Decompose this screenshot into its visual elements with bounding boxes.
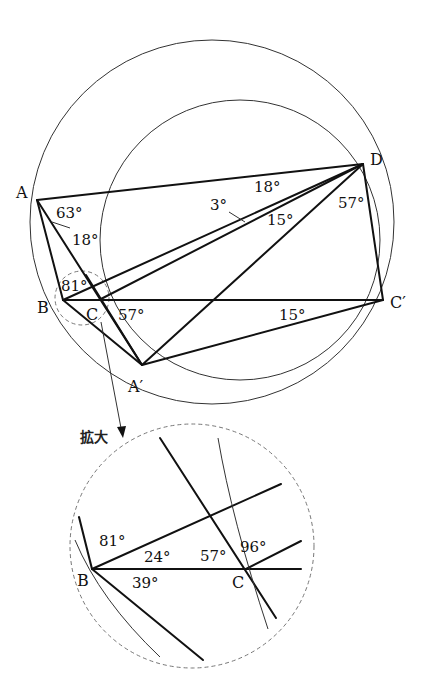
angle-15-at-C-prime: 15° — [279, 306, 306, 324]
geometry-diagram: A D B C C′ A′ 63° 18° 81° 57° 3° 18° 15°… — [0, 0, 437, 690]
zoom-segment-through-C — [160, 438, 276, 618]
angle-63: 63° — [56, 204, 83, 222]
label-C-prime: C′ — [390, 293, 406, 312]
zoom-angle-24: 24° — [144, 548, 171, 566]
zoom-angle-39: 39° — [132, 574, 159, 592]
label-B: B — [37, 298, 49, 317]
angle-15-at-D: 15° — [267, 211, 294, 229]
zoom-angle-81: 81° — [99, 532, 126, 550]
label-A-prime: A′ — [127, 377, 144, 396]
label-A: A — [15, 183, 28, 202]
zoom-label-C: C — [232, 573, 244, 592]
segment-BD — [63, 164, 363, 300]
magnify-label: 拡大 — [80, 429, 108, 445]
angle-81: 81° — [61, 277, 88, 295]
zoom-angle-57: 57° — [200, 547, 227, 565]
label-D: D — [370, 150, 383, 169]
angle-18-at-A: 18° — [72, 231, 99, 249]
angle-57-at-D: 57° — [338, 194, 365, 212]
arrow-head-icon — [117, 426, 126, 438]
zoom-segment-B-upper — [92, 484, 281, 569]
zoom-arc-through-C — [218, 438, 268, 629]
large-circle — [30, 40, 394, 404]
zoom-angle-96: 96° — [240, 538, 267, 556]
label-C: C — [86, 305, 98, 324]
segment-AD — [37, 164, 363, 200]
segment-CD — [99, 164, 363, 300]
angle-18-at-D: 18° — [254, 178, 281, 196]
angle-57-at-C: 57° — [118, 306, 145, 324]
angle-3: 3° — [210, 196, 227, 214]
magnify-arrow-line — [101, 322, 121, 428]
zoom-label-B: B — [77, 571, 89, 590]
